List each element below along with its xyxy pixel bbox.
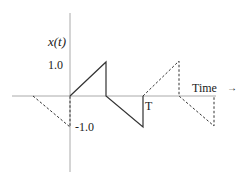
period-label: T [145, 99, 153, 113]
signal-solid [70, 62, 143, 127]
y-axis-label: x(t) [47, 34, 66, 49]
sawtooth-diagram: x(t) 1.0 -1.0 T Time → [0, 0, 246, 176]
signal-dashed-left [33, 96, 70, 127]
x-axis-arrow-icon: → [227, 82, 237, 93]
y-tick-bottom: -1.0 [75, 120, 94, 134]
y-tick-top: 1.0 [48, 58, 63, 72]
x-axis-label: Time [192, 81, 217, 95]
